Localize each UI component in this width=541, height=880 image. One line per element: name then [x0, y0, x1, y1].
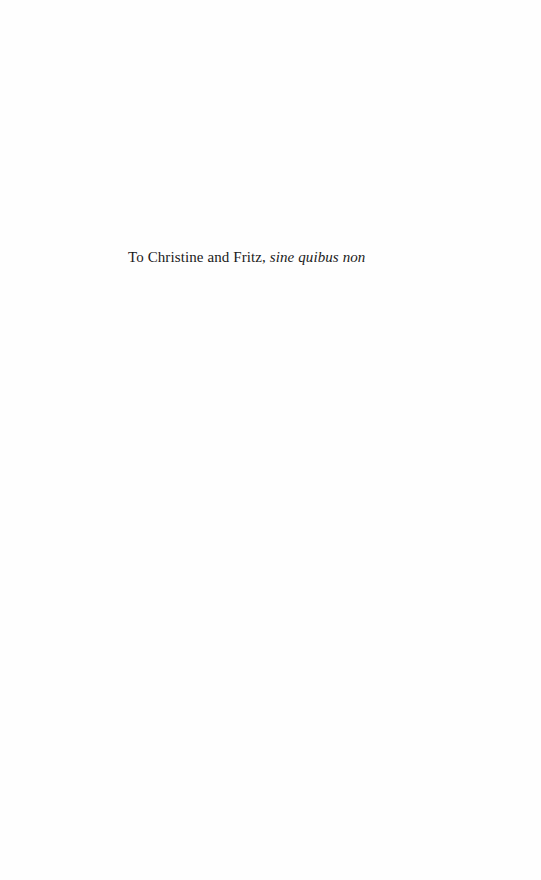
dedication-text: To Christine and Fritz, sine quibus non — [128, 249, 365, 266]
book-page: To Christine and Fritz, sine quibus non — [0, 0, 541, 880]
dedication-italic: sine quibus non — [270, 249, 366, 265]
dedication-plain: To Christine and Fritz, — [128, 249, 266, 265]
